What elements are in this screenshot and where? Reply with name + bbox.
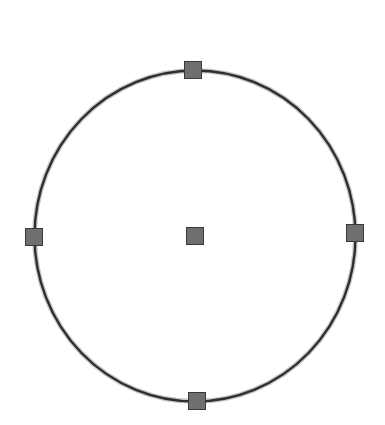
- bottom-handle[interactable]: [189, 393, 206, 410]
- drawing-canvas: [0, 0, 385, 425]
- left-handle[interactable]: [26, 229, 43, 246]
- selection-handles: [26, 62, 364, 410]
- right-handle[interactable]: [347, 225, 364, 242]
- center-handle[interactable]: [187, 228, 204, 245]
- top-handle[interactable]: [185, 62, 202, 79]
